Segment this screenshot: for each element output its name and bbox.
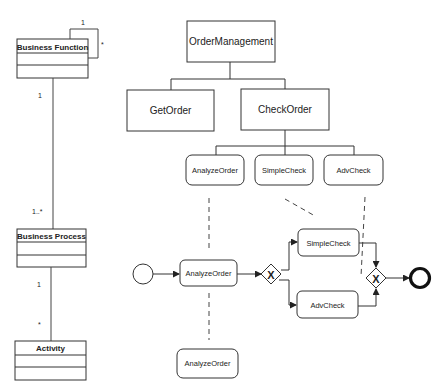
sequence-flow	[279, 280, 296, 305]
svg-text:AdvCheck: AdvCheck	[336, 166, 370, 175]
end-event[interactable]	[411, 269, 430, 288]
uml-class-business-function[interactable]: Business Function	[17, 39, 89, 78]
svg-text:OrderManagement: OrderManagement	[189, 36, 273, 47]
start-event[interactable]	[133, 264, 153, 284]
uml-class-business-process[interactable]: Business Process	[17, 229, 87, 267]
svg-text:SimpleCheck: SimpleCheck	[262, 166, 306, 175]
bpmn-task-analyzeorder[interactable]: AnalyzeOrder	[180, 260, 237, 286]
class-name: Business Process	[17, 232, 86, 241]
hierarchy-node-advcheck[interactable]: AdvCheck	[324, 155, 383, 185]
exclusive-gateway-split[interactable]: X	[261, 264, 281, 284]
multiplicity-label: 1..*	[32, 208, 43, 215]
multiplicity-label: 1	[37, 281, 41, 288]
hierarchy-node-checkorder[interactable]: CheckOrder	[241, 89, 329, 130]
hierarchy-connector	[171, 79, 285, 90]
svg-text:AnalyzeOrder: AnalyzeOrder	[185, 359, 231, 368]
svg-text:AnalyzeOrder: AnalyzeOrder	[186, 269, 232, 278]
bpmn-task-simplecheck[interactable]: SimpleCheck	[298, 229, 359, 256]
class-name: Activity	[36, 344, 65, 353]
svg-text:AnalyzeOrder: AnalyzeOrder	[192, 166, 238, 175]
uml-class-activity[interactable]: Activity	[15, 341, 86, 380]
bpmn-task-advcheck[interactable]: AdvCheck	[297, 291, 358, 318]
svg-text:AdvCheck: AdvCheck	[310, 301, 344, 310]
mapping-line-dashed	[361, 197, 365, 277]
hierarchy-node-simplecheck[interactable]: SimpleCheck	[255, 155, 313, 185]
multiplicity-label: *	[38, 321, 41, 328]
sequence-flow	[281, 242, 297, 270]
svg-text:CheckOrder: CheckOrder	[258, 104, 313, 115]
gateway-x-icon: X	[372, 273, 380, 285]
svg-text:GetOrder: GetOrder	[150, 105, 192, 116]
exclusive-gateway-join[interactable]: X	[366, 268, 386, 288]
class-name: Business Function	[17, 43, 89, 52]
gateway-x-icon: X	[267, 269, 275, 281]
sequence-flow	[358, 289, 376, 306]
svg-text:SimpleCheck: SimpleCheck	[306, 239, 350, 248]
mapping-line-dashed	[285, 199, 315, 216]
multiplicity-label: 1	[81, 19, 85, 26]
multiplicity-label: *	[101, 41, 104, 48]
multiplicity-label: 1	[38, 92, 42, 99]
hierarchy-node-analyzeorder[interactable]: AnalyzeOrder	[186, 155, 244, 185]
hierarchy-node-root[interactable]: OrderManagement	[187, 21, 275, 62]
hierarchy-node-getorder[interactable]: GetOrder	[127, 90, 214, 131]
diagram-canvas: Business Function 1 * 1 1..* Business Pr…	[0, 0, 448, 392]
bpmn-task-analyzeorder-bottom[interactable]: AnalyzeOrder	[177, 349, 238, 378]
